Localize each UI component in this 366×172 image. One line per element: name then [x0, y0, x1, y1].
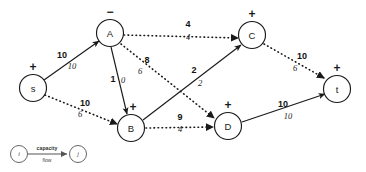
edge-flow-D-t: 10 — [284, 111, 293, 121]
edge-A-C: 4 4 — [124, 19, 238, 42]
edge-capacity-A-B: 1 — [110, 74, 115, 84]
node-sign-A: − — [106, 5, 113, 19]
edge-flow-C-t: 6 — [293, 63, 298, 73]
legend: i j capacity flow — [11, 145, 87, 163]
node-label-t: t — [336, 84, 339, 95]
edge-capacity-s-B: 10 — [80, 98, 90, 108]
edges-layer: 10 10 10 6 4 4 8 6 1 0 — [44, 19, 325, 134]
edge-capacity-D-t: 10 — [278, 99, 288, 109]
node-label-A: A — [107, 28, 114, 39]
edge-s-B: 10 6 — [45, 95, 117, 124]
edge-line-A-C — [124, 35, 238, 38]
edge-s-A: 10 10 — [44, 41, 99, 80]
node-sign-D: + — [224, 98, 231, 112]
edge-capacity-C-t: 10 — [297, 51, 307, 61]
edge-B-D: 9 4 — [146, 112, 213, 134]
edge-flow-A-C: 4 — [186, 32, 191, 42]
graph-canvas: 10 10 10 6 4 4 8 6 1 0 — [0, 0, 366, 172]
edge-flow-A-B: 0 — [121, 75, 126, 85]
legend-capacity-label: capacity — [37, 145, 58, 151]
edge-capacity-B-D: 9 — [177, 112, 182, 122]
flow-network-diagram: 10 10 10 6 4 4 8 6 1 0 — [0, 0, 366, 172]
node-D[interactable]: D + — [215, 98, 242, 140]
edge-capacity-A-D: 8 — [144, 55, 149, 65]
edge-C-t: 10 6 — [264, 44, 324, 78]
edge-flow-A-D: 6 — [138, 66, 143, 76]
node-C[interactable]: C + — [239, 7, 266, 49]
node-label-D: D — [225, 121, 232, 132]
edge-flow-B-C: 2 — [198, 78, 203, 88]
node-label-C: C — [249, 30, 256, 41]
node-sign-s: + — [29, 60, 36, 74]
edge-capacity-s-A: 10 — [57, 50, 67, 60]
node-label-B: B — [128, 123, 134, 134]
edge-A-B: 1 0 — [110, 47, 127, 114]
edge-flow-B-D: 4 — [178, 124, 183, 134]
node-s[interactable]: s + — [20, 60, 47, 102]
node-B[interactable]: B + — [118, 100, 145, 142]
edge-capacity-A-C: 4 — [185, 19, 190, 29]
edge-flow-s-A: 10 — [68, 61, 77, 71]
node-sign-C: + — [248, 7, 255, 21]
node-A[interactable]: A − — [97, 5, 124, 47]
legend-node-to-label: j — [76, 151, 79, 157]
node-t[interactable]: t + — [324, 61, 351, 103]
edge-D-t: 10 10 — [242, 94, 325, 122]
node-sign-B: + — [129, 100, 136, 114]
legend-flow-label: flow — [43, 157, 52, 163]
node-sign-t: + — [333, 61, 340, 75]
node-label-s: s — [31, 83, 36, 94]
edge-capacity-B-C: 2 — [191, 65, 196, 75]
